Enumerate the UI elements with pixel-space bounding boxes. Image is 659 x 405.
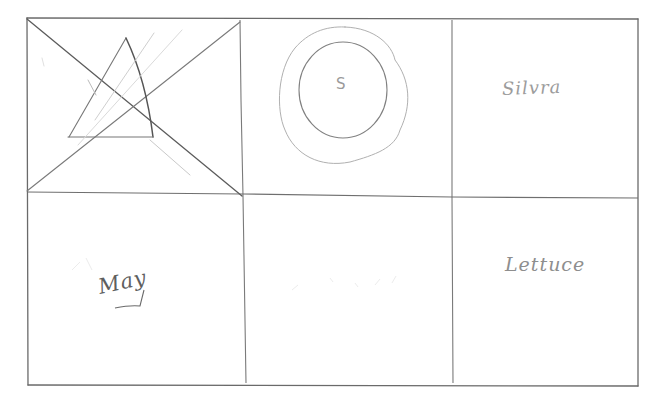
label-silvra: Silvra (502, 76, 562, 99)
cell-empty[interactable] (244, 196, 452, 384)
cell-lettuce[interactable] (453, 198, 638, 384)
cell-circle-logo[interactable] (242, 19, 452, 195)
cell-silvra[interactable] (453, 19, 638, 197)
cell-image-placeholder[interactable] (28, 19, 241, 193)
label-lettuce: Lettuce (505, 253, 585, 275)
